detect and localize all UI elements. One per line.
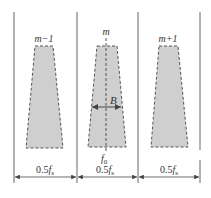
spacing-label-1: 0.5fs xyxy=(36,164,54,177)
channel-label-m: m xyxy=(102,26,109,37)
bandwidth-label: B xyxy=(110,94,117,106)
channel-label-m-1: m−1 xyxy=(35,33,54,44)
spacing-label-2: 0.5fs xyxy=(96,164,114,177)
channel-spectrum-m xyxy=(88,46,126,147)
channel-spectrum-m-1 xyxy=(26,46,63,148)
channel-label-m+1: m+1 xyxy=(159,33,178,44)
spacing-label-3: 0.5fs xyxy=(160,164,178,177)
channel-diagram: B m−1 m m+1 f0 0.5fs 0.5fs 0.5fs xyxy=(0,0,211,198)
channel-spectrum-m+1 xyxy=(151,46,188,147)
